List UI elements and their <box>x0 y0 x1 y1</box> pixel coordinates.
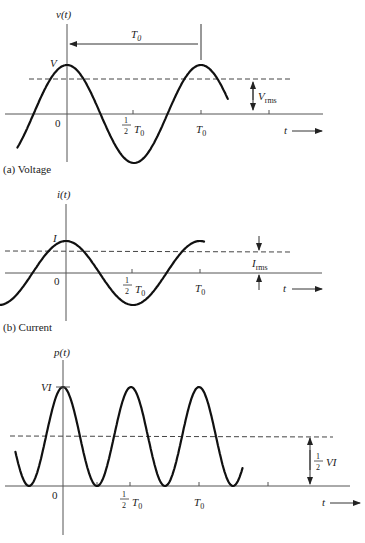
svg-text:1: 1 <box>122 490 126 499</box>
svg-text:T0: T0 <box>134 123 144 138</box>
current-origin-label: 0 <box>54 275 60 287</box>
power-t-label: t <box>322 496 326 508</box>
svg-text:2: 2 <box>124 127 128 136</box>
svg-text:2: 2 <box>125 287 129 296</box>
svg-text:2: 2 <box>122 501 126 510</box>
power-plot: 1 2 VI p(t) VI 0 1 2 T0 T0 t <box>5 346 360 535</box>
current-caption: (b) Current <box>3 321 52 334</box>
power-y-label: p(t) <box>53 346 70 359</box>
current-plot: Irms i(t) I 0 1 2 T0 T0 t (b) Current <box>0 188 322 334</box>
period-label: T0 <box>131 28 141 43</box>
svg-text:1: 1 <box>316 452 320 461</box>
svg-text:1: 1 <box>124 116 128 125</box>
power-waveform <box>15 387 242 486</box>
voltage-plot: T0 Vrms v(t) V 0 1 2 T0 T0 t (a) Voltage <box>3 8 323 176</box>
voltage-t-label: t <box>284 124 288 136</box>
power-period-tick-label: T0 <box>194 496 204 511</box>
voltage-y-label: v(t) <box>56 8 72 21</box>
current-y-label: i(t) <box>57 188 71 201</box>
svg-text:T0: T0 <box>135 283 145 298</box>
voltage-origin-label: 0 <box>55 117 61 129</box>
svg-text:1: 1 <box>125 276 129 285</box>
vrms-label: Vrms <box>258 90 277 105</box>
voltage-half-period-label: 1 2 T0 <box>122 116 144 138</box>
current-t-label: t <box>283 282 287 294</box>
power-average-line <box>10 436 333 437</box>
avg-power-label: 1 2 VI <box>314 452 338 472</box>
current-half-period-label: 1 2 T0 <box>123 276 145 298</box>
power-origin-label: 0 <box>52 489 58 501</box>
power-peak-label: VI <box>41 381 53 393</box>
irms-label: Irms <box>251 257 268 272</box>
current-peak-label: I <box>52 232 58 244</box>
current-period-tick-label: T0 <box>195 282 205 297</box>
power-half-period-label: 1 2 T0 <box>120 490 142 511</box>
ac-power-waveforms-figure: T0 Vrms v(t) V 0 1 2 T0 T0 t (a) Voltage… <box>0 0 365 543</box>
svg-text:2: 2 <box>316 463 320 472</box>
voltage-caption: (a) Voltage <box>3 163 51 176</box>
svg-text:T0: T0 <box>132 496 142 511</box>
svg-text:VI: VI <box>326 456 338 468</box>
voltage-peak-label: V <box>50 57 58 69</box>
voltage-period-tick-label: T0 <box>196 123 206 138</box>
